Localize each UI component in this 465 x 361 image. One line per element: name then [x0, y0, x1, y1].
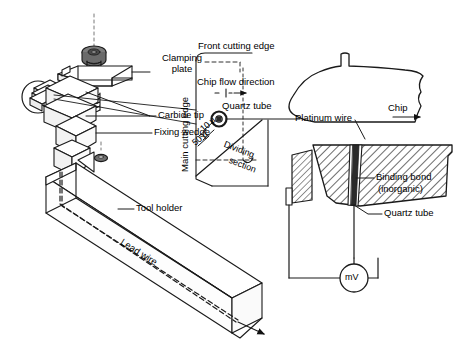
label-front-cutting-edge: Front cutting edge: [198, 41, 275, 52]
label-chip: Chip: [388, 103, 408, 114]
label-mv-meter: mV: [345, 272, 359, 282]
measuring-circuit: [289, 205, 378, 278]
chip-flow-arrow: [215, 89, 246, 97]
label-tool-holder: Tool holder: [136, 203, 182, 214]
leader-platinum-wire: [355, 120, 365, 139]
label-platinum-wire: Platinum wire: [295, 113, 352, 124]
label-clamping-plate: Clamping plate: [152, 53, 212, 74]
label-chip-flow-direction: Chip flow direction: [197, 77, 275, 88]
label-quartz-tube-detail: Quartz tube: [222, 101, 272, 112]
label-main-cutting-edge: Main cutting edge: [180, 97, 191, 172]
tool-holder-body: [46, 163, 262, 338]
diagram-canvas: Clamping plate Carbide tip Fixing wedge …: [0, 0, 465, 361]
cross-section-detail: [286, 53, 452, 214]
label-quartz-tube-section: Quartz tube: [384, 208, 434, 219]
label-binding-bond-line1: Binding bond: [376, 172, 431, 183]
washer: [95, 142, 108, 162]
label-binding-bond-line2: (inorganic): [378, 184, 423, 195]
carbide-tip-stack: [30, 76, 98, 175]
